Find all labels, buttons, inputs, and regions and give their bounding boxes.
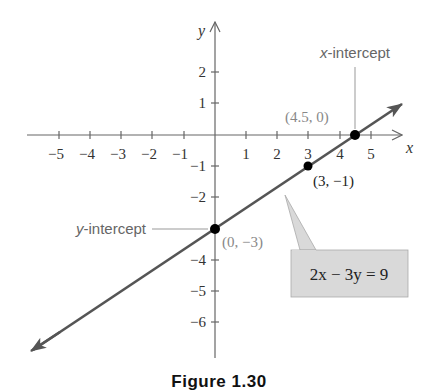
x-tick-label: 2 — [273, 146, 281, 162]
y-tick-label: −1 — [190, 158, 206, 174]
y-intercept-label: y-intercept — [75, 220, 147, 237]
x-axis-label: x — [405, 139, 413, 156]
equation-line-lower-arrow — [31, 332, 60, 351]
callout-pointer — [285, 195, 316, 250]
y-axis-label: y — [196, 22, 206, 40]
y-tick-labels: 2 1 −1 −2 −4 −5 −6 — [190, 64, 206, 330]
point-label-y-intercept: (0, −3) — [222, 234, 263, 251]
x-tick-label: −2 — [141, 146, 157, 162]
point-label-3-neg1: (3, −1) — [313, 173, 354, 190]
y-tick-label: 1 — [199, 95, 207, 111]
point-y-intercept — [210, 224, 220, 234]
equation-label: 2x − 3y = 9 — [310, 265, 389, 284]
point-label-x-intercept: (4.5, 0) — [285, 109, 329, 126]
x-tick-label: −3 — [110, 146, 126, 162]
point-x-intercept — [350, 130, 360, 140]
y-tick-label: −5 — [190, 283, 206, 299]
x-tick-label: −1 — [172, 146, 188, 162]
y-tick-label: −6 — [190, 314, 206, 330]
x-tick-label: 1 — [242, 146, 250, 162]
y-tick-label: −4 — [190, 252, 206, 268]
x-tick-label: 5 — [367, 146, 375, 162]
x-tick-label: 3 — [304, 146, 312, 162]
point-3-neg1 — [304, 162, 313, 171]
y-tick-label: −2 — [190, 189, 206, 205]
figure-caption: Figure 1.30 — [0, 372, 438, 392]
x-tick-label: −5 — [48, 146, 64, 162]
y-tick-label: 2 — [199, 64, 207, 80]
x-tick-label: −4 — [79, 146, 95, 162]
x-intercept-label: x-intercept — [319, 44, 391, 61]
